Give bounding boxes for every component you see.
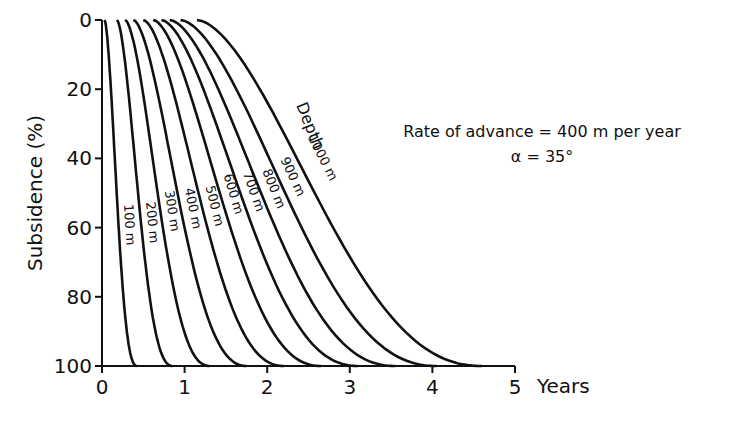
curve-label: 400 m: [182, 186, 205, 230]
y-tick-label: 80: [67, 285, 92, 309]
alpha-annotation: α = 35°: [511, 147, 573, 166]
rate-annotation: Rate of advance = 400 m per year: [403, 122, 681, 141]
x-axis-label: Years: [536, 374, 590, 398]
y-tick-label: 40: [67, 146, 92, 170]
y-tick-label: 100: [54, 354, 92, 378]
x-tick-label: 3: [343, 375, 356, 399]
curve-label: 100 m: [121, 203, 138, 245]
y-tick-label: 60: [67, 216, 92, 240]
y-ticks: 020406080100: [54, 8, 102, 378]
curve-label: 300 m: [162, 189, 183, 232]
x-tick-label: 2: [261, 375, 274, 399]
y-tick-label: 0: [79, 8, 92, 32]
y-tick-label: 20: [67, 77, 92, 101]
x-tick-label: 1: [178, 375, 191, 399]
curve-label: 200 m: [143, 201, 162, 244]
x-tick-label: 5: [509, 375, 522, 399]
y-axis-label: Subsidence (%): [23, 115, 47, 271]
subsidence-chart: 020406080100 012345 100 m200 m300 m400 m…: [0, 0, 737, 424]
x-tick-label: 4: [426, 375, 439, 399]
curve-100m: [105, 20, 137, 366]
x-ticks: 012345: [96, 366, 522, 399]
depth-label: Depth: [292, 99, 328, 151]
x-tick-label: 0: [96, 375, 109, 399]
